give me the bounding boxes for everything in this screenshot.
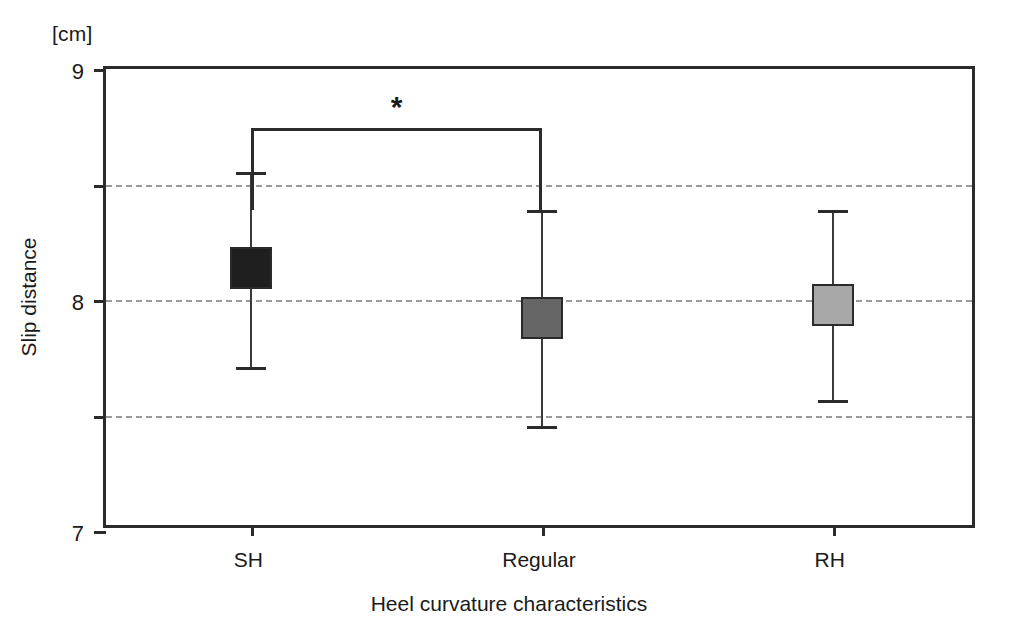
x-tick-label-regular: Regular [502, 548, 576, 572]
error-bar-cap-lower-rh [818, 400, 848, 403]
x-tick-rh [833, 525, 836, 536]
x-tick-label-sh: SH [234, 548, 263, 572]
y-tick-6: 6 [94, 416, 106, 419]
error-bar-cap-upper-regular [527, 210, 557, 213]
error-bar-cap-lower-sh [236, 367, 266, 370]
y-tick-9: 9 [94, 69, 106, 72]
marker-rh [812, 284, 854, 326]
gridline-y-6 [106, 416, 972, 418]
y-tick-label-8: 8 [72, 292, 84, 314]
marker-sh [230, 247, 272, 289]
x-tick-sh [251, 525, 254, 536]
y-tick-8: 8 [94, 185, 106, 188]
y-tick-7: 7 [94, 300, 106, 303]
significance-asterisk: * [391, 92, 403, 122]
chart-figure: [cm] Slip distance 98765* Heel curvature… [0, 0, 1018, 633]
y-axis-label-holder: Slip distance [14, 66, 44, 528]
significance-bracket [251, 128, 542, 210]
x-tick-regular [542, 525, 545, 536]
y-tick-5: 5 [94, 531, 106, 534]
error-bar-cap-lower-regular [527, 426, 557, 429]
error-bar-cap-upper-rh [818, 210, 848, 213]
y-tick-label-7: 7 [72, 523, 84, 545]
marker-regular [521, 297, 563, 339]
x-axis-label: Heel curvature characteristics [0, 592, 1018, 616]
plot-area: 98765* [103, 66, 975, 528]
y-tick-label-9: 9 [72, 61, 84, 83]
y-axis-unit-label: [cm] [52, 22, 92, 46]
x-tick-label-rh: RH [814, 548, 844, 572]
y-axis-label: Slip distance [17, 237, 41, 356]
